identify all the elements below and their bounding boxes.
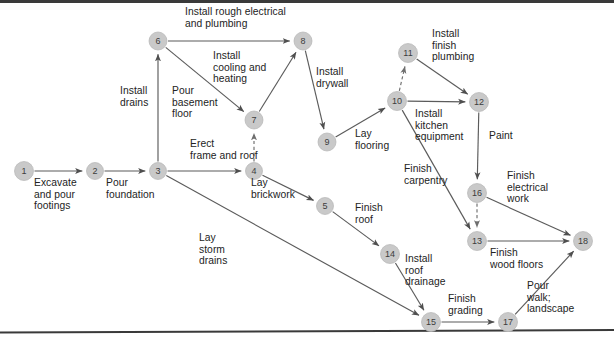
node-label-1: 1: [21, 166, 26, 176]
node-11[interactable]: 11: [399, 44, 418, 63]
edge-10-to-11: [399, 66, 405, 90]
node-label-8: 8: [300, 36, 305, 46]
node-label-9: 9: [324, 137, 329, 147]
activity-label-install-cooling-heating: Install cooling and heating: [213, 50, 266, 85]
node-label-12: 12: [474, 97, 484, 107]
node-label-15: 15: [426, 317, 436, 327]
node-15[interactable]: 15: [422, 313, 441, 332]
node-label-5: 5: [322, 201, 327, 211]
activity-label-install-kitchen-equipment: Install kitchen equipment: [415, 108, 464, 143]
node-8[interactable]: 8: [294, 32, 312, 50]
node-14[interactable]: 14: [381, 245, 400, 264]
activity-label-erect-frame-and-roof: Erect frame and roof: [190, 138, 258, 161]
activity-label-lay-brickwork: Lay brickwork: [251, 177, 295, 200]
node-label-6: 6: [155, 36, 160, 46]
node-label-3: 3: [155, 166, 160, 176]
node-10[interactable]: 10: [388, 92, 407, 111]
node-label-18: 18: [578, 236, 588, 246]
node-label-17: 17: [503, 317, 513, 327]
node-label-10: 10: [392, 96, 402, 106]
node-7[interactable]: 7: [245, 111, 263, 129]
node-label-7: 7: [251, 115, 256, 125]
edge-12-to-16: [477, 112, 478, 179]
node-9[interactable]: 9: [318, 133, 336, 151]
activity-label-install-roof-drainage: Install roof drainage: [405, 253, 445, 288]
activity-label-install-rough-electrical: Install rough electrical and plumbing: [185, 6, 286, 29]
activity-label-install-drains: Install drains: [120, 85, 148, 108]
node-2[interactable]: 2: [87, 163, 104, 180]
bottom-rule: [0, 330, 614, 333]
node-label-13: 13: [472, 236, 482, 246]
activity-label-pour-walk-landscape: Pour walk; landscape: [527, 280, 574, 315]
activity-label-lay-flooring: Lay flooring: [355, 128, 389, 151]
node-label-4: 4: [251, 166, 256, 176]
activity-label-pour-foundation: Pour foundation: [106, 177, 155, 200]
node-label-11: 11: [403, 48, 412, 58]
edge-10-to-12: [407, 101, 465, 102]
node-5[interactable]: 5: [317, 198, 334, 215]
edge-8-to-9: [305, 51, 324, 129]
node-13[interactable]: 13: [468, 232, 487, 251]
network-diagram-figure: 123456789101112131415161718 Install roug…: [0, 0, 614, 345]
node-label-16: 16: [472, 188, 482, 198]
activity-label-install-finish-plumbing: Install finish plumbing: [432, 28, 474, 63]
activity-label-paint: Paint: [489, 130, 513, 142]
node-17[interactable]: 17: [499, 313, 518, 332]
activity-label-finish-carpentry: Finish carpentry: [404, 163, 447, 186]
node-18[interactable]: 18: [574, 232, 593, 251]
node-16[interactable]: 16: [468, 184, 487, 203]
node-1[interactable]: 1: [15, 162, 34, 181]
activity-label-lay-storm-drains: Lay storm drains: [199, 232, 227, 267]
node-6[interactable]: 6: [149, 32, 167, 50]
activity-label-pour-basement-floor: Pour basement floor: [172, 85, 218, 120]
activity-label-excavate-and-pour: Excavate and pour footings: [34, 177, 77, 212]
activity-label-finish-wood-floors: Finish wood floors: [490, 247, 543, 270]
node-12[interactable]: 12: [470, 93, 489, 112]
edge-11-to-12: [417, 59, 468, 94]
activity-label-finish-grading: Finish grading: [448, 293, 483, 316]
activity-label-install-drywall: Install drywall: [316, 66, 348, 89]
activity-label-finish-electrical-work: Finish electrical work: [507, 170, 548, 205]
node-label-2: 2: [92, 166, 97, 176]
activity-label-finish-roof: Finish roof: [355, 202, 383, 225]
node-label-14: 14: [385, 249, 395, 259]
nodes-layer: 123456789101112131415161718: [15, 32, 593, 332]
